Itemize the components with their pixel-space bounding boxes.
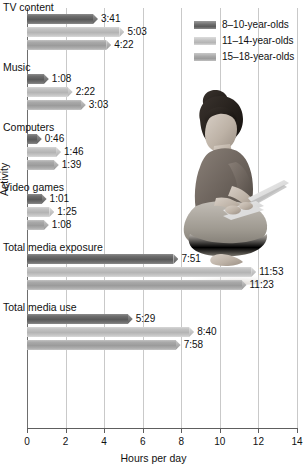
bar-cap: [128, 314, 133, 324]
tick-mark-12: [258, 428, 259, 433]
bar-music-series-1: [27, 87, 73, 97]
bar-body: [27, 207, 49, 217]
bar-video-games-series-1: [27, 207, 54, 217]
x-tick-label-6: 6: [140, 436, 146, 447]
bar-value-label: 3:03: [89, 99, 108, 110]
bar-value-label: 5:03: [127, 26, 146, 37]
bar-cap: [119, 27, 124, 37]
tick-mark-8: [181, 428, 182, 433]
bar-body: [27, 314, 128, 324]
tick-mark-6: [143, 428, 144, 433]
bar-value-label: 4:22: [114, 39, 133, 50]
bar-cap: [176, 340, 181, 350]
gridline-14: [297, 8, 298, 428]
bar-value-label: 11:53: [259, 266, 283, 277]
tick-mark-0: [27, 428, 28, 433]
tick-mark-4: [104, 428, 105, 433]
x-axis-line: [27, 428, 297, 429]
bar-value-label: 8:40: [197, 326, 216, 337]
bar-value-label: 1:01: [50, 193, 69, 204]
bar-total-media-use-series-2: [27, 340, 181, 350]
bar-body: [27, 40, 106, 50]
bar-value-label: 7:51: [181, 253, 200, 264]
x-tick-label-2: 2: [63, 436, 69, 447]
bar-body: [27, 147, 56, 157]
bar-body: [27, 14, 93, 24]
legend-swatch-11-14-icon: [194, 37, 216, 45]
x-tick-label-8: 8: [179, 436, 185, 447]
x-tick-label-0: 0: [24, 436, 30, 447]
bar-total-media-use-series-0: [27, 314, 133, 324]
bar-body: [27, 74, 44, 84]
bar-body: [27, 327, 189, 337]
bar-cap: [37, 134, 42, 144]
bar-total-media-use-series-1: [27, 327, 194, 337]
bar-cap: [42, 194, 47, 204]
bar-cap: [189, 327, 194, 337]
category-label-music: Music: [3, 61, 30, 73]
gridline-8: [181, 8, 182, 428]
legend-item-8-10: 8–10-year-olds: [194, 18, 294, 31]
gridline-2: [66, 8, 67, 428]
tick-mark-10: [220, 428, 221, 433]
bar-cap: [56, 147, 61, 157]
bar-cap: [44, 74, 49, 84]
bar-cap: [251, 267, 256, 277]
bar-body: [27, 160, 54, 170]
bar-value-label: 11:23: [250, 279, 274, 290]
bar-body: [27, 134, 37, 144]
bar-tv-content-series-2: [27, 40, 111, 50]
bar-video-games-series-2: [27, 220, 49, 230]
bar-cap: [173, 254, 178, 264]
bar-value-label: 3:41: [101, 13, 120, 24]
legend-swatch-8-10-icon: [194, 21, 216, 29]
bar-value-label: 0:46: [45, 133, 64, 144]
bar-value-label: 2:22: [76, 86, 95, 97]
category-label-video-games: Video games: [3, 181, 64, 193]
bar-value-label: 5:29: [136, 313, 155, 324]
legend-label-15-18: 15–18-year-olds: [222, 51, 294, 62]
x-tick-label-14: 14: [291, 436, 302, 447]
category-label-total-media-use: Total media use: [3, 301, 77, 313]
bar-body: [27, 280, 242, 290]
bar-body: [27, 267, 251, 277]
category-label-computers: Computers: [3, 121, 54, 133]
x-tick-label-10: 10: [214, 436, 225, 447]
plot-area: [27, 8, 297, 428]
gridline-6: [143, 8, 144, 428]
tick-mark-14: [297, 428, 298, 433]
bar-cap: [81, 100, 86, 110]
bar-cap: [93, 14, 98, 24]
bar-computers-series-2: [27, 160, 59, 170]
bar-body: [27, 100, 81, 110]
tick-mark-2: [66, 428, 67, 433]
bar-cap: [49, 207, 54, 217]
bar-body: [27, 27, 119, 37]
bar-body: [27, 194, 42, 204]
gridline-12: [258, 8, 259, 428]
legend-label-8-10: 8–10-year-olds: [222, 19, 289, 30]
bar-tv-content-series-0: [27, 14, 98, 24]
legend-label-11-14: 11–14-year-olds: [222, 35, 294, 46]
bar-computers-series-0: [27, 134, 42, 144]
bar-cap: [242, 280, 247, 290]
bar-value-label: 1:08: [52, 73, 71, 84]
bar-total-media-exposure-series-0: [27, 254, 178, 264]
bar-body: [27, 340, 176, 350]
bar-video-games-series-0: [27, 194, 47, 204]
bar-value-label: 1:25: [57, 206, 76, 217]
bar-total-media-exposure-series-2: [27, 280, 247, 290]
bar-body: [27, 254, 173, 264]
x-tick-label-4: 4: [101, 436, 107, 447]
x-tick-label-12: 12: [253, 436, 264, 447]
legend-swatch-15-18-icon: [194, 53, 216, 61]
bar-cap: [106, 40, 111, 50]
gridline-10: [220, 8, 221, 428]
bar-value-label: 1:46: [64, 146, 83, 157]
bar-cap: [54, 160, 59, 170]
category-label-tv-content: TV content: [3, 1, 54, 13]
bar-body: [27, 87, 68, 97]
bar-cap: [44, 220, 49, 230]
bar-body: [27, 220, 44, 230]
bar-value-label: 7:58: [184, 339, 203, 350]
